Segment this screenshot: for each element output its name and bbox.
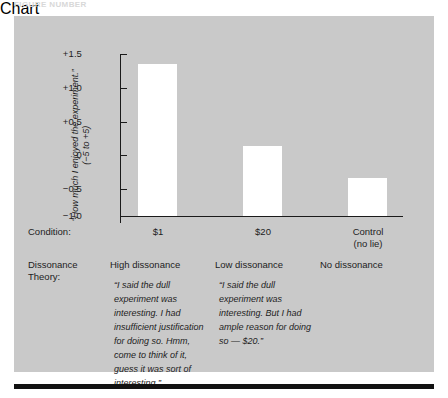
bar-dollar1 [138, 64, 177, 216]
y-tick-label: +1.5 [24, 49, 82, 59]
y-axis-line [120, 54, 121, 223]
theory-quote-dollar20: “I said the dull experiment was interest… [219, 279, 315, 349]
y-axis-title-line2: (−5 to +5) [81, 55, 92, 235]
category-label-control: Control (no lie) [338, 226, 398, 250]
y-tick-mark [120, 54, 127, 55]
theory-row-label-line1: Dissonance [28, 259, 78, 271]
bar-dollar20 [243, 146, 282, 216]
y-tick-label: +1.0 [24, 83, 82, 93]
theory-heading-dollar20: Low dissonance [215, 259, 313, 271]
y-tick-mark [120, 216, 127, 217]
y-tick-label: 0 [24, 150, 82, 160]
chart-panel: “How much I enjoyed the experiment.” (−5… [14, 16, 434, 372]
figure-caption-top: FIGURE NUMBER [14, 0, 87, 9]
y-tick-mark [120, 122, 127, 123]
plot-area: “How much I enjoyed the experiment.” (−5… [14, 16, 434, 372]
theory-heading-control: No dissonance [320, 259, 418, 271]
y-tick-label: +0.5 [24, 117, 82, 127]
category-label-line1: $20 [233, 226, 293, 238]
bottom-rule [14, 384, 434, 389]
category-label-line2: (no lie) [338, 238, 398, 250]
y-tick-mark [120, 189, 127, 190]
figure-container: FIGURE NUMBER “How much I enjoyed the ex… [0, 0, 448, 398]
category-label-line1: $1 [128, 226, 188, 238]
condition-row-label: Condition: [28, 226, 71, 238]
theory-row-label: Dissonance Theory: [28, 259, 78, 284]
bar-control [348, 178, 387, 216]
category-label-dollar1: $1 [128, 226, 188, 238]
category-label-line1: Control [338, 226, 398, 238]
y-tick-mark [120, 155, 127, 156]
theory-quote-dollar1: “I said the dull experiment was interest… [114, 279, 206, 391]
category-label-dollar20: $20 [233, 226, 293, 238]
y-tick-mark [120, 88, 127, 89]
y-tick-label: −1.0 [24, 211, 82, 221]
x-axis-baseline [120, 216, 403, 217]
theory-heading-dollar1: High dissonance [110, 259, 208, 271]
theory-row-label-line2: Theory: [28, 271, 78, 283]
y-tick-label: −0.5 [24, 184, 82, 194]
